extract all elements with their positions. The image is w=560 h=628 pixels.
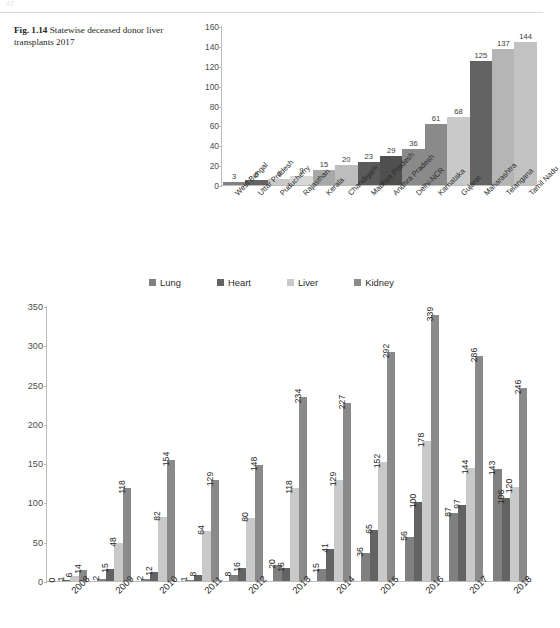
chart2-x-axis-labels: 2008200920102011201220132014201520162017… [47, 586, 533, 626]
chart2-bar-item[interactable]: 178 [422, 306, 431, 581]
chart1-bar-item[interactable]: 15 [313, 26, 335, 185]
chart2-bar-value: 246 [513, 380, 523, 394]
chart2-bar-value: 178 [416, 433, 426, 447]
chart2-bar-item[interactable]: 0 [53, 306, 62, 581]
chart2-bar-item[interactable]: 97 [458, 306, 467, 581]
chart2-year-group: 8797144286 [444, 306, 488, 581]
chart2-bar-item[interactable]: 56 [405, 306, 414, 581]
chart2-bar-item[interactable]: 64 [202, 306, 211, 581]
chart1-bar-item[interactable]: 125 [470, 26, 492, 185]
chart1-bar-item[interactable]: 3 [223, 26, 245, 185]
chart2-bar-item[interactable]: 6 [70, 306, 79, 581]
chart2-year-group: 21282154 [136, 306, 180, 581]
chart2-bar-item[interactable]: 234 [299, 306, 308, 581]
legend-item-lung[interactable]: Lung [149, 277, 181, 288]
chart2-bar-item[interactable]: 8 [194, 306, 203, 581]
chart2-bar-item[interactable]: 246 [519, 306, 528, 581]
legend-item-liver[interactable]: Liver [287, 277, 318, 288]
chart2-x-label-cell: 2016 [401, 586, 445, 626]
chart2-bar-item[interactable]: 143 [493, 306, 502, 581]
chart2-bar-item[interactable]: 48 [114, 306, 123, 581]
chart2-bar-item[interactable]: 1 [185, 306, 194, 581]
chart2-bar-value: 16 [232, 563, 242, 573]
chart2-bar-item[interactable]: 339 [431, 306, 440, 581]
chart2-bar-item[interactable]: 80 [246, 306, 255, 581]
chart1-bar-value: 29 [380, 146, 402, 155]
chart1-bar-value: 125 [470, 51, 492, 60]
chart2-bar-value: 15 [311, 563, 321, 573]
chart2-bar-item[interactable]: 87 [449, 306, 458, 581]
chart2-bar [202, 531, 211, 581]
chart2-bar-value: 1 [179, 577, 189, 582]
chart2-bar-item[interactable]: 120 [510, 306, 519, 581]
chart2-x-label-cell: 2015 [356, 586, 400, 626]
chart2-y-tick [44, 307, 47, 308]
chart2-bar-item[interactable]: 154 [167, 306, 176, 581]
chart2-bar-item[interactable]: 1 [62, 306, 71, 581]
chart2-bar [299, 397, 308, 581]
chart2-bar-value: 65 [364, 524, 374, 534]
chart1-bar-item[interactable]: 68 [447, 26, 469, 185]
chart2-bar-item[interactable]: 41 [326, 306, 335, 581]
chart2-y-tick [44, 346, 47, 347]
chart2-legend: LungHeartLiverKidney [0, 277, 543, 288]
chart2-bar-value: 41 [320, 543, 330, 553]
chart1-y-tick-label: 120 [205, 62, 219, 72]
chart2-bar-item[interactable]: 2 [141, 306, 150, 581]
chart2-y-tick [44, 386, 47, 387]
chart2-bar-item[interactable]: 20 [273, 306, 282, 581]
chart2-bar-item[interactable]: 14 [79, 306, 88, 581]
chart2-bar-item[interactable]: 286 [475, 306, 484, 581]
chart1-bar-item[interactable]: 20 [335, 26, 357, 185]
chart2-bar-value: 292 [381, 343, 391, 357]
chart1-y-tick-label: 160 [205, 22, 219, 32]
chart2-x-label-cell: 2014 [312, 586, 356, 626]
chart2-bar-value: 129 [205, 471, 215, 485]
chart2-bar-value: 80 [240, 512, 250, 522]
chart1-bar-item[interactable]: 9 [290, 26, 312, 185]
chart2-bar-item[interactable]: 12 [150, 306, 159, 581]
chart2-year-group: 56100178339 [400, 306, 444, 581]
chart2-year-group: 3665152292 [356, 306, 400, 581]
chart2-bar [387, 352, 396, 581]
chart2-bar-item[interactable]: 129 [334, 306, 343, 581]
chart2-bar-item[interactable]: 65 [370, 306, 379, 581]
figure-1-caption: Fig. 1.14 Statewise deceased donor liver… [14, 24, 164, 49]
chart2-bar-item[interactable]: 36 [361, 306, 370, 581]
chart2-bar-item[interactable]: 106 [502, 306, 511, 581]
legend-item-kidney[interactable]: Kidney [354, 277, 394, 288]
chart1-bar-item[interactable]: 23 [358, 26, 380, 185]
chart2-bar-item[interactable]: 292 [387, 306, 396, 581]
chart2-bar-item[interactable]: 148 [255, 306, 264, 581]
chart2-bar [334, 480, 343, 581]
page-number: 42 [6, 0, 14, 7]
chart2-year-group: 21548118 [92, 306, 136, 581]
legend-item-heart[interactable]: Heart [217, 277, 251, 288]
chart2-bar [510, 487, 519, 581]
chart2-bar-value: 12 [144, 566, 154, 576]
chart2-year-group: 81680148 [224, 306, 268, 581]
chart2-bar-item[interactable]: 118 [290, 306, 299, 581]
chart2-bar [370, 530, 379, 581]
chart2-bar-item[interactable]: 16 [238, 306, 247, 581]
figure-1-caption-label: Fig. 1.14 [14, 25, 47, 35]
chart2-bar-value: 16 [276, 563, 286, 573]
chart1-bar-value: 23 [358, 152, 380, 161]
chart2-bar-item[interactable]: 15 [317, 306, 326, 581]
chart2-bar-item[interactable]: 227 [343, 306, 352, 581]
legend-label: Kidney [365, 277, 394, 288]
chart1-y-tick-label: 100 [205, 82, 219, 92]
chart2-bar-item[interactable]: 2 [97, 306, 106, 581]
chart1-bar-item[interactable]: 144 [514, 26, 536, 185]
chart2-y-tick [44, 464, 47, 465]
chart2-y-tick-label: 200 [28, 420, 43, 430]
chart2-bar-value: 14 [73, 564, 83, 574]
chart2-bar-item[interactable]: 8 [229, 306, 238, 581]
chart2-bar-item[interactable]: 118 [123, 306, 132, 581]
chart2-bar-value: 1 [56, 577, 66, 582]
chart2-bar-item[interactable]: 82 [158, 306, 167, 581]
chart2-bar-item[interactable]: 129 [211, 306, 220, 581]
chart2-bar [414, 502, 423, 581]
chart2-bar-item[interactable]: 16 [282, 306, 291, 581]
legend-swatch-icon [217, 279, 224, 286]
